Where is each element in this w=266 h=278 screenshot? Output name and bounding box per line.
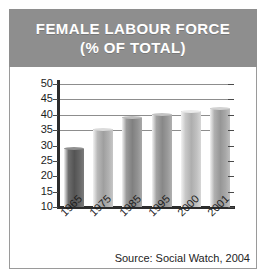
y-tick-mark-right xyxy=(228,99,234,100)
y-tick-mark xyxy=(53,161,58,162)
bar-cap xyxy=(210,107,230,110)
chart-title: FEMALE LABOUR FORCE (% OF TOTAL) xyxy=(36,19,230,57)
y-tick-mark xyxy=(53,146,58,147)
y-tick-mark-right xyxy=(228,130,234,131)
y-tick-mark xyxy=(53,84,58,85)
y-tick-mark-right xyxy=(228,84,234,85)
y-tick-label: 20 xyxy=(29,169,53,181)
y-tick-mark-right xyxy=(228,161,234,162)
bar-cap xyxy=(122,116,142,119)
y-tick-mark xyxy=(53,115,58,116)
y-tick-label: 35 xyxy=(29,123,53,135)
y-tick-mark xyxy=(53,176,58,177)
bar-cap xyxy=(93,128,113,131)
y-axis-labels: 504540353025201510 xyxy=(26,0,53,278)
y-tick-mark xyxy=(53,99,58,100)
y-tick-label: 30 xyxy=(29,139,53,151)
chart-figure: FEMALE LABOUR FORCE (% OF TOTAL) 5045403… xyxy=(0,0,266,278)
bar-series xyxy=(59,84,235,207)
y-tick-mark xyxy=(53,130,58,131)
y-tick-label: 40 xyxy=(29,108,53,120)
y-tick-label: 10 xyxy=(29,200,53,212)
y-tick-mark xyxy=(53,192,58,193)
chart-title-line2: (% OF TOTAL) xyxy=(36,38,230,57)
y-tick-mark-right xyxy=(228,146,234,147)
bar-cap xyxy=(152,113,172,116)
y-tick-mark-right xyxy=(228,207,234,208)
y-tick-mark-right xyxy=(228,176,234,177)
source-note: Source: Social Watch, 2004 xyxy=(115,252,250,264)
y-tick-label: 45 xyxy=(29,92,53,104)
y-tick-label: 25 xyxy=(29,154,53,166)
y-tick-mark-right xyxy=(228,192,234,193)
bar-cap xyxy=(181,110,201,113)
y-tick-label: 15 xyxy=(29,185,53,197)
y-tick-mark xyxy=(53,207,58,208)
chart-title-line1: FEMALE LABOUR FORCE xyxy=(36,20,230,37)
x-axis-labels: 196519751985199520002001 xyxy=(59,210,239,250)
bar-cap xyxy=(64,147,84,150)
y-tick-mark-right xyxy=(228,115,234,116)
y-tick-label: 50 xyxy=(29,77,53,89)
